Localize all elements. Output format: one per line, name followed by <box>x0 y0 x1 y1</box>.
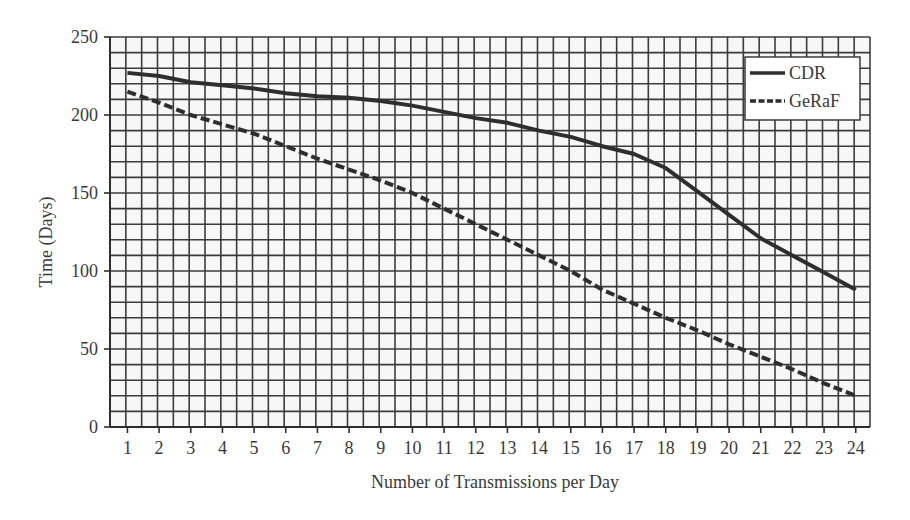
x-tick-label: 1 <box>123 438 132 458</box>
y-tick-label: 250 <box>71 27 98 47</box>
x-tick-label: 4 <box>218 438 227 458</box>
y-tick-label: 0 <box>89 417 98 437</box>
x-tick-label: 20 <box>720 438 738 458</box>
y-tick-label: 200 <box>71 105 98 125</box>
x-tick-label: 13 <box>498 438 516 458</box>
x-tick-label: 22 <box>783 438 801 458</box>
y-tick-label: 150 <box>71 183 98 203</box>
x-tick-label: 21 <box>752 438 770 458</box>
x-tick-label: 16 <box>593 438 611 458</box>
legend-label-cdr: CDR <box>789 63 826 83</box>
x-tick-label: 11 <box>435 438 452 458</box>
x-tick-label: 18 <box>657 438 675 458</box>
x-tick-label: 2 <box>155 438 164 458</box>
y-axis-title: Time (Days) <box>36 197 57 288</box>
legend: CDR GeRaF <box>745 57 860 120</box>
x-tick-label: 14 <box>530 438 548 458</box>
x-tick-label: 6 <box>281 438 290 458</box>
x-tick-label: 3 <box>186 438 195 458</box>
x-tick-label: 15 <box>562 438 580 458</box>
x-tick-label: 12 <box>467 438 485 458</box>
x-tick-label: 17 <box>625 438 643 458</box>
y-tick-label: 50 <box>80 339 98 359</box>
x-tick-label: 8 <box>345 438 354 458</box>
y-tick-label: 100 <box>71 261 98 281</box>
x-tick-label: 7 <box>313 438 322 458</box>
x-axis-title: Number of Transmissions per Day <box>371 472 619 492</box>
x-axis-ticks: 123456789101112131415161718192021222324 <box>123 427 865 458</box>
x-tick-label: 23 <box>815 438 833 458</box>
legend-label-geraf: GeRaF <box>789 91 840 111</box>
line-chart: 050100150200250 123456789101112131415161… <box>0 0 910 520</box>
x-tick-label: 9 <box>376 438 385 458</box>
x-tick-label: 24 <box>847 438 865 458</box>
y-axis-ticks: 050100150200250 <box>71 27 110 437</box>
x-tick-label: 5 <box>250 438 259 458</box>
x-tick-label: 10 <box>403 438 421 458</box>
chart-canvas: 050100150200250 123456789101112131415161… <box>0 0 910 520</box>
x-tick-label: 19 <box>688 438 706 458</box>
